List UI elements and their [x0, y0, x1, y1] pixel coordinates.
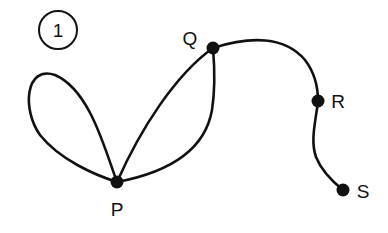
vertex-s	[337, 184, 350, 197]
vertex-label-p: P	[111, 199, 124, 220]
graph-diagram: 1 P Q R S	[0, 0, 388, 233]
figure-number-badge: 1	[39, 11, 77, 49]
edge-p-q-inner	[117, 48, 213, 182]
vertex-label-s: S	[357, 181, 370, 202]
edge-p-q-outer	[117, 48, 214, 182]
vertex-q	[207, 42, 220, 55]
figure-number: 1	[53, 20, 64, 41]
vertex-r	[312, 95, 325, 108]
edge-q-r	[213, 40, 318, 101]
edge-loop-p	[29, 74, 117, 182]
edge-r-s	[313, 101, 343, 190]
vertex-label-q: Q	[183, 28, 198, 49]
vertex-p	[111, 176, 124, 189]
vertex-label-r: R	[331, 91, 345, 112]
